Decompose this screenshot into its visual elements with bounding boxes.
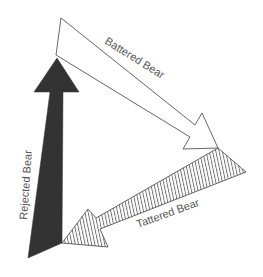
tattered-bear-arrow xyxy=(62,148,246,247)
battered-bear-arrow xyxy=(56,18,218,149)
rejected-bear-arrow xyxy=(28,58,79,258)
rejected-bear-label: Rejected Bear xyxy=(17,149,34,220)
bear-cycle-diagram: Battered Bear Tattered Bear Rejected Bea… xyxy=(0,0,263,277)
